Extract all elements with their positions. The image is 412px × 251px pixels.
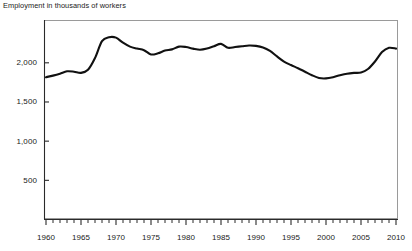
- y-axis-tick-label: 1,000: [16, 137, 37, 146]
- y-axis-tick-label: 1,500: [16, 97, 37, 106]
- y-axis-tick-labels: 5001,0001,5002,000: [16, 58, 37, 185]
- y-axis-tick-label: 500: [23, 176, 37, 185]
- x-axis-tick-label: 2000: [317, 233, 336, 242]
- line-chart-plot: 5001,0001,5002,000 196019651970197519801…: [0, 0, 412, 251]
- chart-figure: Employment in thousands of workers 5001,…: [0, 0, 412, 251]
- x-axis-tick-label: 1960: [37, 233, 56, 242]
- employment-data-line: [46, 37, 396, 79]
- x-axis-tick-label: 1970: [107, 233, 126, 242]
- y-axis-tick-label: 2,000: [16, 58, 37, 67]
- x-axis-tick-label: 2010: [387, 233, 406, 242]
- x-axis-tick-label: 1995: [282, 233, 301, 242]
- x-axis-tick-label: 1985: [212, 233, 231, 242]
- x-axis-tick-labels: 1960196519701975198019851990199520002005…: [37, 233, 406, 242]
- x-axis-tick-label: 1990: [247, 233, 266, 242]
- x-axis-tick-label: 1975: [142, 233, 161, 242]
- x-axis-tick-label: 1980: [177, 233, 196, 242]
- x-axis-tick-label: 1965: [72, 233, 91, 242]
- x-axis-tick-label: 2005: [352, 233, 371, 242]
